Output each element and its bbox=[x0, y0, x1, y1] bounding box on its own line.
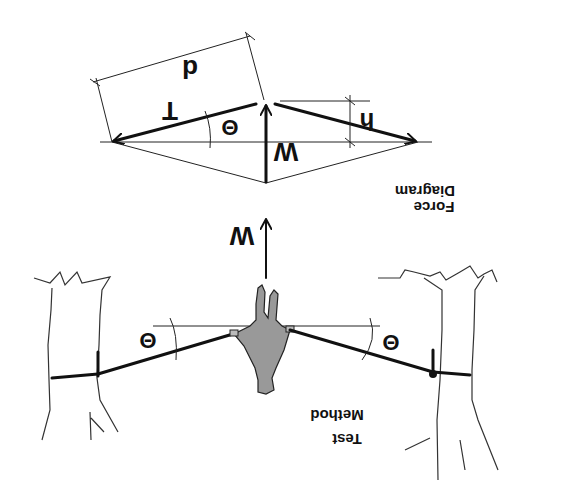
label-d: d bbox=[182, 54, 198, 84]
label-theta-right: Θ bbox=[382, 330, 399, 355]
label-w-force: W bbox=[273, 137, 298, 167]
label-h: h bbox=[360, 108, 375, 135]
left-tree bbox=[34, 272, 118, 440]
rope-left bbox=[98, 334, 233, 374]
label-w-test: W bbox=[229, 221, 254, 251]
rope-right bbox=[290, 330, 433, 372]
label-theta-force: Θ bbox=[221, 115, 238, 140]
test-method: W Θ Θ bbox=[34, 220, 498, 480]
force-diagram-title-line2: Diagram bbox=[395, 183, 455, 200]
right-tree bbox=[378, 266, 498, 480]
label-t: T bbox=[162, 96, 178, 126]
test-method-title-line1: Test bbox=[332, 431, 362, 448]
force-diagram-title-line1: Force bbox=[414, 199, 455, 216]
label-theta-left: Θ bbox=[139, 328, 156, 353]
person-figure bbox=[234, 285, 290, 394]
test-method-title-line2: Method bbox=[310, 407, 363, 424]
tension-vector-right bbox=[275, 104, 415, 141]
force-diagram: d T Θ W h Force Diagram bbox=[90, 32, 455, 216]
diagram-canvas: d T Θ W h Force Diagram W Θ Θ bbox=[0, 0, 561, 504]
